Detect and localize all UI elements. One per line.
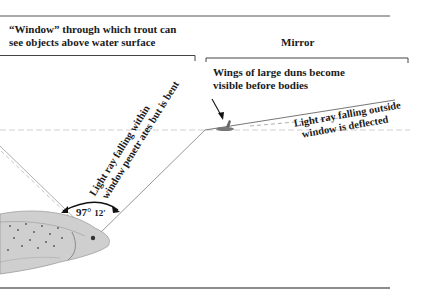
angle-label: 97° 12′ xyxy=(76,206,106,220)
window-label-line2: see objects above water surface xyxy=(9,36,176,49)
mirror-bracket xyxy=(206,58,408,63)
angle-minutes: 12′ xyxy=(94,208,106,218)
duns-label: Wings of large duns become visible befor… xyxy=(213,66,345,91)
angle-degrees: 97° xyxy=(76,206,91,218)
window-bracket xyxy=(0,56,195,62)
mirror-label: Mirror xyxy=(281,36,314,49)
window-label-line1: “Window” through which trout can xyxy=(9,23,176,36)
window-label: “Window” through which trout can see obj… xyxy=(9,23,176,48)
duns-label-line1: Wings of large duns become xyxy=(213,66,345,79)
trout-illustration xyxy=(0,211,109,274)
arrow-icon xyxy=(212,99,224,120)
duns-label-line2: visible before bodies xyxy=(213,79,345,92)
